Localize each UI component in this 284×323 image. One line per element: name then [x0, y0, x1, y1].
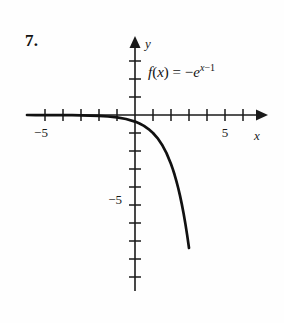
x-axis-label: x [253, 128, 260, 143]
function-formula: f(x) = −ex−1 [148, 62, 215, 81]
formula-base: e [193, 64, 200, 80]
y-axis-label: y [143, 36, 151, 51]
y-axis-arrowhead [130, 36, 141, 48]
formula-equals: = [173, 64, 181, 80]
y-tick-label-minus5: −5 [108, 192, 122, 207]
figure-container: 7. [0, 0, 284, 323]
x-axis-arrowhead [256, 110, 268, 121]
formula-exponent-const: 1 [210, 62, 215, 73]
x-tick-label-minus5: −5 [34, 125, 48, 140]
formula-var: x [157, 64, 164, 80]
formula-minus: − [185, 64, 193, 80]
exponential-curve [27, 115, 189, 248]
formula-exponent: x−1 [200, 62, 215, 73]
coordinate-graph: −5 5 −5 x y [0, 0, 284, 323]
x-tick-label-5: 5 [222, 125, 229, 140]
